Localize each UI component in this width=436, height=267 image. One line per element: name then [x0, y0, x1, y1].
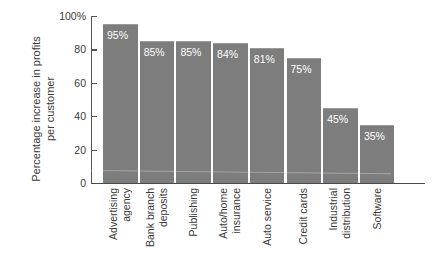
bar-value-label: 95% — [107, 29, 128, 41]
bar: 85% — [176, 41, 211, 183]
category-label-line: Industrial — [327, 188, 340, 231]
bar-value-label: 75% — [291, 63, 312, 75]
category-label: Publishing — [176, 188, 211, 264]
bar-value-label: 45% — [327, 113, 348, 125]
bar: 85% — [140, 41, 175, 183]
y-tick-label: 100% — [46, 11, 86, 21]
category-label-line: Advertising — [107, 188, 120, 240]
bar: 35% — [360, 125, 395, 183]
bar-value-label: 84% — [217, 48, 238, 60]
category-label: Industrialdistribution — [323, 188, 358, 264]
bar-value-label: 85% — [180, 46, 201, 58]
bar-chart: Percentage increase in profits per custo… — [0, 0, 436, 267]
category-label-line: deposits — [157, 188, 170, 227]
category-label-line: Auto/home — [217, 188, 230, 239]
y-axis-tick-labels: 100%806040200 — [40, 0, 86, 267]
bar: 81% — [250, 48, 285, 183]
category-label-line: insurance — [230, 188, 243, 234]
plot-area: 95%85%85%84%81%75%45%35% — [91, 16, 425, 183]
category-label-line: Credit cards — [297, 188, 310, 245]
category-label: Auto service — [250, 188, 285, 264]
bar-value-label: 35% — [364, 130, 385, 142]
bar-value-label: 85% — [144, 46, 165, 58]
category-label-line: Software — [371, 188, 384, 229]
category-label: Credit cards — [287, 188, 322, 264]
category-label-line: distribution — [340, 188, 353, 239]
y-tick-label: 60 — [46, 78, 86, 88]
y-tick-label: 40 — [46, 111, 86, 121]
bar: 84% — [213, 43, 248, 183]
bar: 75% — [287, 58, 322, 183]
category-label-line: Bank branch — [144, 188, 157, 247]
bar: 45% — [323, 108, 358, 183]
category-label: Advertisingagency — [103, 188, 138, 264]
category-label: Auto/homeinsurance — [213, 188, 248, 264]
y-tick-label: 0 — [46, 178, 86, 188]
category-label: Bank branchdeposits — [140, 188, 175, 264]
y-tick-label: 20 — [46, 145, 86, 155]
bar: 95% — [103, 24, 138, 183]
category-label-line: Publishing — [187, 188, 200, 236]
y-tick-label: 80 — [46, 44, 86, 54]
bar-value-label: 81% — [254, 53, 275, 65]
category-label-line: agency — [120, 188, 133, 222]
category-label: Software — [360, 188, 395, 264]
category-label-line: Auto service — [261, 188, 274, 246]
